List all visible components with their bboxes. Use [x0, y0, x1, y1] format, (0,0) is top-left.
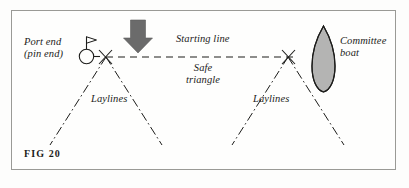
figure-container: Port end(pin end) Starting line Safetria…: [0, 0, 409, 188]
down-arrow-icon: [124, 20, 153, 53]
label-committee-line1: Committee: [340, 35, 386, 46]
label-port-end: Port end(pin end): [24, 36, 63, 61]
label-port-end-line1: Port end: [24, 36, 61, 47]
boat-hull-icon: [312, 24, 335, 94]
figure-caption: FIG 20: [24, 148, 61, 159]
label-starting-line: Starting line: [176, 33, 230, 45]
label-laylines-left: Laylines: [91, 93, 127, 105]
label-safe-line2: triangle: [186, 74, 220, 85]
label-port-end-line2: (pin end): [24, 48, 63, 59]
label-committee-line2: boat: [340, 47, 359, 58]
buoy-flag-icon: [79, 37, 100, 64]
sailing-start-line-diagram: [0, 0, 409, 188]
label-safe-triangle: Safetriangle: [186, 62, 220, 87]
label-laylines-right: Laylines: [253, 93, 289, 105]
label-safe-line1: Safe: [194, 62, 212, 73]
label-committee-boat: Committeeboat: [340, 35, 386, 60]
